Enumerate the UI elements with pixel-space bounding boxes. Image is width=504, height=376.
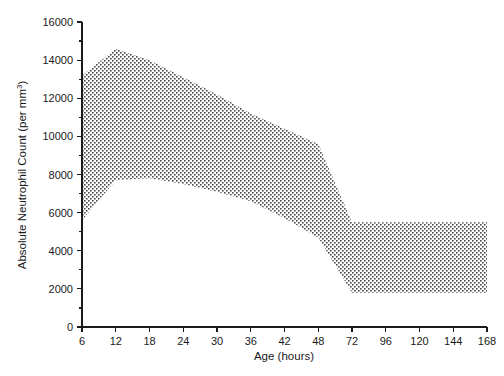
x-tick-label: 12 <box>110 335 122 347</box>
x-axis-title-group: Age (hours) <box>254 350 314 362</box>
x-tick-label: 42 <box>278 335 290 347</box>
y-tick-label: 8000 <box>49 169 73 181</box>
y-axis-title-group: Absolute Neutrophil Count (per mm3) <box>15 81 29 270</box>
x-tick-label: 48 <box>312 335 324 347</box>
x-tick-label: 144 <box>444 335 462 347</box>
y-axis-title-close-paren: ) <box>16 81 28 85</box>
x-tick-label: 168 <box>478 335 496 347</box>
reference-band-area <box>82 49 487 293</box>
x-tick-label: 18 <box>143 335 155 347</box>
y-tick-label: 12000 <box>42 92 73 104</box>
x-tick-label: 6 <box>79 335 85 347</box>
y-tick-label: 10000 <box>42 130 73 142</box>
y-axis-title: Absolute Neutrophil Count (per mm3) <box>15 81 29 270</box>
x-tick-label: 120 <box>410 335 428 347</box>
y-axis-ticks: 0200040006000800010000120001400016000 <box>42 16 82 333</box>
y-tick-label: 6000 <box>49 207 73 219</box>
x-tick-label: 96 <box>380 335 392 347</box>
chart-figure: 0200040006000800010000120001400016000 61… <box>0 0 504 376</box>
neutrophil-count-chart: 0200040006000800010000120001400016000 61… <box>0 0 504 376</box>
x-axis-title: Age (hours) <box>254 350 314 362</box>
y-tick-label: 14000 <box>42 54 73 66</box>
x-tick-label: 30 <box>211 335 223 347</box>
x-tick-label: 72 <box>346 335 358 347</box>
y-axis-title-main: Absolute Neutrophil Count (per mm <box>16 89 28 269</box>
reference-band-group <box>82 49 487 293</box>
y-tick-label: 16000 <box>42 16 73 28</box>
y-tick-label: 2000 <box>49 283 73 295</box>
y-tick-label: 4000 <box>49 245 73 257</box>
y-tick-label: 0 <box>67 321 73 333</box>
x-axis-ticks: 6121824303642487296120144168 <box>79 327 496 347</box>
x-tick-label: 24 <box>177 335 189 347</box>
x-tick-label: 36 <box>245 335 257 347</box>
